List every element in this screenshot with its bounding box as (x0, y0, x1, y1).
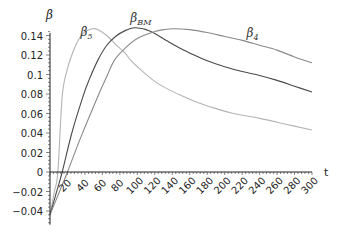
y-axis-title: β (45, 8, 53, 22)
x-tick-label: 180 (194, 175, 215, 196)
line-chart: 2040608010012014016018020022024026028030… (0, 0, 345, 237)
x-tick-label: 140 (159, 175, 180, 196)
x-tick-label: 280 (281, 175, 302, 196)
x-tick-label: 40 (74, 177, 91, 194)
y-tick-label: −0.04 (12, 206, 43, 217)
y-minor-ticks (46, 32, 50, 223)
y-tick-label: 0.12 (21, 50, 43, 61)
y-tick-label: 0.14 (21, 31, 43, 42)
y-tick-label: 0.02 (21, 148, 43, 159)
y-tick-label: 0.06 (21, 109, 43, 120)
x-axis-title: t (324, 166, 329, 179)
series-label-5: β5 (80, 25, 93, 41)
x-tick-label: 100 (124, 175, 145, 196)
x-tick-label: 60 (92, 177, 109, 194)
x-tick-label: 160 (177, 175, 198, 196)
x-tick-label: 200 (212, 175, 233, 196)
y-tick-labels: −0.04−0.0200.020.040.060.080.10.120.14 (12, 31, 43, 218)
x-tick-label: 120 (142, 175, 163, 196)
series-label-4: β4 (246, 26, 259, 42)
y-tick-label: 0.04 (21, 128, 43, 139)
x-tick-label: 300 (299, 175, 320, 196)
x-tick-label: 240 (246, 175, 267, 196)
y-tick-label: −0.02 (12, 187, 43, 198)
x-tick-label: 80 (109, 177, 126, 194)
series-label-bm: βBM (129, 11, 152, 27)
x-tick-label: 220 (229, 175, 250, 196)
y-tick-label: 0.08 (21, 89, 43, 100)
x-tick-labels: 2040608010012014016018020022024026028030… (57, 175, 321, 196)
y-tick-label: 0 (37, 167, 43, 178)
x-tick-label: 260 (264, 175, 285, 196)
y-tick-label: 0.1 (27, 70, 43, 81)
